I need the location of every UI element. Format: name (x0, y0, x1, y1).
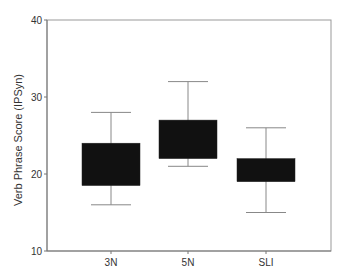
iqr-box (237, 159, 295, 182)
box-3n (82, 112, 140, 204)
box-series (82, 82, 295, 213)
iqr-box (82, 143, 140, 185)
x-tick-label-3n: 3N (105, 257, 118, 268)
y-tick-label: 10 (31, 246, 43, 257)
y-tick-label: 20 (31, 169, 43, 180)
box-plot-chart: 10203040 3N5NSLI Verb Phrase Score (IPSy… (0, 0, 345, 276)
x-tick-label-sli: SLI (258, 257, 273, 268)
box-sli (237, 128, 295, 213)
iqr-box (159, 120, 217, 159)
y-tick-label: 40 (31, 15, 43, 26)
x-tick-label-5n: 5N (182, 257, 195, 268)
x-axis-ticks: 3N5NSLI (105, 251, 274, 268)
y-axis-ticks: 10203040 (31, 15, 47, 257)
y-axis-title: Verb Phrase Score (IPSyn) (12, 74, 24, 206)
y-tick-label: 30 (31, 92, 43, 103)
box-5n (159, 82, 217, 167)
